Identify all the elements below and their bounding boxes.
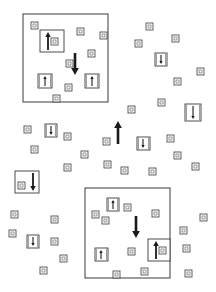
small-cell xyxy=(53,95,60,102)
small-cell xyxy=(158,99,165,106)
small-cell xyxy=(18,182,25,189)
small-cell xyxy=(103,138,110,145)
small-cell xyxy=(24,126,31,133)
small-cell xyxy=(197,68,204,75)
small-cell xyxy=(60,255,67,262)
small-cell xyxy=(92,211,99,218)
small-cell xyxy=(40,267,47,274)
small-cell xyxy=(192,163,199,170)
small-cell xyxy=(88,50,95,57)
small-cell xyxy=(31,22,38,29)
small-cell xyxy=(141,268,148,275)
small-cell xyxy=(167,135,174,142)
small-cell xyxy=(113,271,120,278)
small-cell xyxy=(180,227,187,234)
small-cell xyxy=(146,23,153,30)
small-cell xyxy=(185,270,192,277)
small-cell xyxy=(64,133,71,140)
small-cell xyxy=(102,217,109,224)
small-cell xyxy=(66,60,73,67)
small-cell xyxy=(51,238,58,245)
small-cell xyxy=(149,168,156,175)
arrow-box-down xyxy=(27,235,39,248)
small-cell xyxy=(51,38,58,45)
small-cell xyxy=(121,167,128,174)
small-cell xyxy=(51,216,58,223)
small-cell xyxy=(135,40,142,47)
small-cell xyxy=(200,214,207,221)
arrow-box-down xyxy=(15,171,39,193)
small-cell xyxy=(128,106,135,113)
small-cell xyxy=(128,248,135,255)
small-cell xyxy=(152,210,159,217)
small-cell xyxy=(11,211,18,218)
small-cell xyxy=(100,32,107,39)
arrow-box-up xyxy=(85,74,99,88)
arrow-box-down xyxy=(137,137,150,150)
small-cell xyxy=(81,151,88,158)
arrow-box-up xyxy=(107,198,119,211)
small-cell xyxy=(64,164,71,171)
arrow-box-up xyxy=(148,239,170,261)
small-cell xyxy=(65,84,72,91)
small-cell xyxy=(174,78,181,85)
small-cell xyxy=(104,161,111,168)
small-cell xyxy=(174,152,181,159)
small-cell xyxy=(172,35,179,42)
small-cell xyxy=(31,146,38,153)
small-cell xyxy=(124,204,131,211)
small-cell xyxy=(183,245,190,252)
arrow-box-down xyxy=(155,53,167,66)
small-cell xyxy=(77,28,84,35)
arrow-box-up xyxy=(38,74,52,88)
arrow-box-up xyxy=(40,30,64,52)
arrow-box-down xyxy=(185,104,201,121)
small-cell xyxy=(159,247,166,254)
small-cell xyxy=(9,230,16,237)
domain-diagram xyxy=(0,0,216,292)
region-bottom-right xyxy=(85,188,170,278)
big-arrow-center-up xyxy=(114,121,122,144)
arrow-box-up xyxy=(95,248,108,261)
big-arrow-bottom-right-down xyxy=(132,216,140,238)
arrow-box-down xyxy=(45,124,57,137)
